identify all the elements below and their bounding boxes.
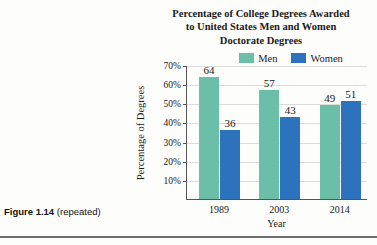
x-axis-title: Year: [186, 218, 367, 229]
bar-value-label: 49: [324, 92, 335, 104]
chart-title-line1: Percentage of College Degrees Awarded: [172, 8, 349, 19]
legend-item-women: Women: [291, 53, 342, 64]
chart-legend: Men Women: [216, 51, 366, 65]
x-tick-label: 1989: [209, 204, 229, 215]
x-tick-label: 2003: [269, 204, 289, 215]
legend-swatch-women: [291, 53, 306, 63]
legend-label-men: Men: [258, 53, 277, 64]
y-axis-title: Percentage of Degrees: [135, 66, 149, 200]
y-tick-mark: [183, 162, 187, 163]
y-tick-label: 60%: [164, 80, 181, 90]
chart-title-line2: to United States Men and Women: [186, 21, 337, 32]
y-tick-label: 70%: [164, 61, 181, 71]
y-tick-mark: [183, 85, 187, 86]
figure-caption: Figure 1.14 (repeated): [4, 206, 101, 217]
figure-caption-label: Figure 1.14: [4, 206, 54, 217]
bar-men-1989: 64: [199, 77, 219, 200]
y-tick-label: 20%: [164, 157, 181, 167]
chart-subtitle: Doctorate Degrees: [150, 35, 372, 48]
bar-group: 64361989: [195, 66, 255, 199]
y-tick-label: 10%: [164, 176, 181, 186]
y-tick-mark: [183, 143, 187, 144]
bar-value-label: 43: [285, 104, 296, 116]
y-tick-label: 50%: [164, 99, 181, 109]
y-tick-mark: [183, 181, 187, 182]
y-tick-label: 30%: [164, 138, 181, 148]
y-tick-label: 40%: [164, 118, 181, 128]
y-tick-mark: [183, 123, 187, 124]
bar-value-label: 64: [204, 64, 215, 76]
bar-women-2014: 51: [341, 101, 361, 199]
y-tick-mark: [183, 66, 187, 67]
bar-women-1989: 36: [220, 130, 240, 199]
legend-item-men: Men: [239, 53, 277, 64]
bar-women-2003: 43: [280, 117, 300, 199]
y-tick-mark: [183, 104, 187, 105]
figure-caption-note: (repeated): [57, 206, 101, 217]
x-tick-label: 2014: [330, 204, 350, 215]
legend-label-women: Women: [310, 53, 342, 64]
bar-men-2014: 49: [320, 105, 340, 199]
bar-group: 57432003: [255, 66, 315, 199]
bar-men-2003: 57: [259, 90, 279, 199]
bottom-divider: [0, 236, 377, 238]
chart-title: Percentage of College Degrees Awarded to…: [150, 8, 372, 33]
bar-value-label: 36: [225, 117, 236, 129]
bar-group: 49512014: [316, 66, 376, 199]
plot-area: 70%60%50%40%30%20%10%6436198957432003495…: [186, 66, 367, 200]
bar-value-label: 51: [345, 88, 356, 100]
bar-value-label: 57: [264, 77, 275, 89]
legend-swatch-men: [239, 53, 254, 63]
